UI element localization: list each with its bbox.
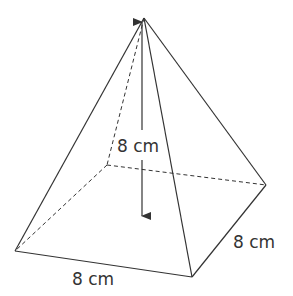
hidden-base-edge-left (15, 165, 107, 251)
hidden-edges (15, 18, 266, 251)
base-edge-right (192, 185, 266, 277)
right-edge-label: 8 cm (233, 232, 275, 252)
front-edge-label: 8 cm (72, 269, 114, 289)
pyramid-diagram: 8 cm 8 cm 8 cm (0, 0, 293, 296)
lateral-edge-right (144, 18, 266, 185)
lateral-edge-left (15, 18, 144, 251)
hidden-base-edge-back (107, 165, 266, 185)
height-label: 8 cm (117, 136, 159, 156)
